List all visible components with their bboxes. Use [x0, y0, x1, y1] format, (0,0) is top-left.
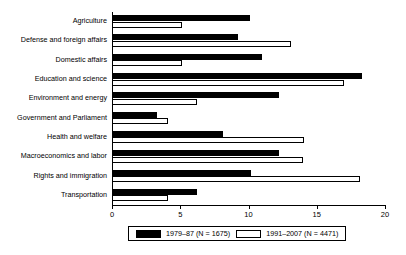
x-tick — [385, 205, 386, 209]
bar-1 — [112, 176, 360, 182]
bar-1 — [112, 99, 197, 105]
bar-0 — [112, 150, 279, 156]
bar-0 — [112, 54, 262, 60]
category-row: Transportation — [112, 186, 385, 205]
plot-area: AgricultureDefense and foreign affairsDo… — [112, 12, 385, 205]
category-label: Health and welfare — [0, 133, 112, 141]
category-row: Domestic affairs — [112, 51, 385, 70]
category-row: Environment and energy — [112, 89, 385, 108]
category-label: Domestic affairs — [0, 56, 112, 64]
hollow-white-swatch — [236, 230, 261, 238]
category-label: Education and science — [0, 75, 112, 83]
bar-1 — [112, 22, 182, 28]
bar-0 — [112, 131, 223, 137]
bar-0 — [112, 34, 238, 40]
bar-1 — [112, 137, 304, 143]
x-tick — [180, 205, 181, 209]
bar-1 — [112, 118, 168, 124]
category-row: Rights and immigration — [112, 166, 385, 185]
x-tick-label: 20 — [370, 210, 400, 219]
category-row: Defense and foreign affairs — [112, 31, 385, 50]
legend-label: 1979–87 (N = 1675) — [166, 229, 230, 238]
legend-label: 1991–2007 (N = 4471) — [266, 229, 338, 238]
x-tick — [249, 205, 250, 209]
bar-0 — [112, 92, 279, 98]
chart-legend: 1979–87 (N = 1675)1991–2007 (N = 4471) — [128, 226, 346, 241]
legend-entry: 1991–2007 (N = 4471) — [236, 229, 338, 238]
category-row: Government and Parliament — [112, 109, 385, 128]
bar-1 — [112, 80, 344, 86]
filled-black-swatch — [136, 230, 161, 238]
x-tick-label: 5 — [165, 210, 195, 219]
category-label: Macroeconomics and labor — [0, 152, 112, 160]
legend-entry: 1979–87 (N = 1675) — [136, 229, 230, 238]
x-tick — [112, 205, 113, 209]
x-tick — [317, 205, 318, 209]
bar-1 — [112, 41, 291, 47]
bar-0 — [112, 73, 362, 79]
bar-0 — [112, 170, 251, 176]
category-label: Government and Parliament — [0, 114, 112, 122]
category-row: Agriculture — [112, 12, 385, 31]
category-label: Defense and foreign affairs — [0, 36, 112, 44]
bar-chart-figure: AgricultureDefense and foreign affairsDo… — [0, 0, 406, 255]
x-tick-label: 0 — [97, 210, 127, 219]
bar-0 — [112, 189, 197, 195]
category-label: Agriculture — [0, 17, 112, 25]
y-axis-line — [112, 12, 113, 205]
category-row: Macroeconomics and labor — [112, 147, 385, 166]
bar-1 — [112, 195, 168, 201]
bar-0 — [112, 112, 157, 118]
category-row: Health and welfare — [112, 128, 385, 147]
x-tick-label: 10 — [234, 210, 264, 219]
x-tick-label: 15 — [302, 210, 332, 219]
bar-1 — [112, 157, 303, 163]
category-row: Education and science — [112, 70, 385, 89]
category-label: Transportation — [0, 191, 112, 199]
category-label: Rights and immigration — [0, 172, 112, 180]
category-label: Environment and energy — [0, 94, 112, 102]
bar-1 — [112, 60, 182, 66]
bar-0 — [112, 15, 250, 21]
